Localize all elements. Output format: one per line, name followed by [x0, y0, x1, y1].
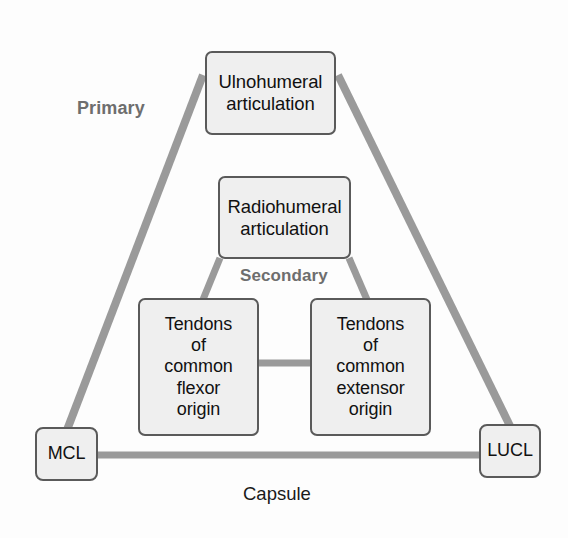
node-text-line: LUCL: [487, 440, 533, 461]
node-text-line: extensor: [336, 378, 404, 399]
common-flexor-origin-node[interactable]: Tendons of common flexor origin: [138, 298, 259, 436]
secondary-group-label: Secondary: [240, 266, 328, 286]
node-text-line: articulation: [226, 93, 314, 115]
lucl-node[interactable]: LUCL: [479, 424, 541, 478]
node-text-line: Tendons: [337, 314, 404, 335]
ulnohumeral-articulation-node[interactable]: Ulnohumeral articulation: [205, 51, 336, 135]
node-text-line: origin: [177, 399, 220, 420]
connector-radiohumeral-to-flexor: [202, 258, 220, 302]
capsule-label: Capsule: [243, 483, 311, 505]
elbow-stability-diagram: Ulnohumeral articulation Radiohumeral ar…: [0, 0, 568, 538]
node-text-line: MCL: [48, 443, 86, 464]
radiohumeral-articulation-node[interactable]: Radiohumeral articulation: [218, 176, 351, 259]
mcl-node[interactable]: MCL: [35, 427, 98, 481]
node-text-line: common: [336, 356, 404, 377]
node-text-line: of: [191, 335, 206, 356]
node-text-line: articulation: [240, 218, 328, 240]
node-text-line: flexor: [177, 378, 220, 399]
common-extensor-origin-node[interactable]: Tendons of common extensor origin: [310, 298, 431, 436]
node-text-line: Ulnohumeral: [219, 71, 323, 93]
node-text-line: Tendons: [165, 314, 232, 335]
node-text-line: Radiohumeral: [228, 196, 342, 218]
primary-group-label: Primary: [77, 98, 145, 119]
node-text-line: origin: [349, 399, 392, 420]
connector-radiohumeral-to-extensor: [349, 258, 368, 302]
node-text-line: of: [363, 335, 378, 356]
node-text-line: common: [164, 356, 232, 377]
